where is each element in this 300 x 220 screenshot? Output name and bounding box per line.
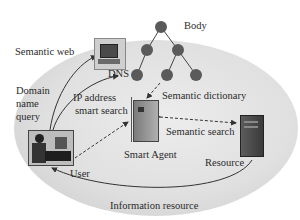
label-domain-name-query-2: name	[16, 98, 39, 110]
label-ip-address: IP address	[73, 92, 116, 104]
resource-server-icon	[240, 115, 264, 157]
user-at-computer-icon	[28, 130, 74, 166]
label-smart-agent: Smart Agent	[124, 149, 177, 161]
label-dns: DNS	[108, 68, 129, 80]
label-domain-name-query-3: query	[16, 111, 40, 123]
label-semantic-web: Semantic web	[15, 46, 74, 58]
label-user: User	[70, 168, 90, 180]
label-domain-name-query-1: Domain	[16, 85, 50, 97]
label-smart-search: smart search	[75, 105, 128, 117]
smart-agent-divider	[131, 97, 132, 142]
label-body: Body	[184, 20, 207, 32]
label-semantic-dictionary: Semantic dictionary	[162, 90, 246, 102]
semantic-web-computer-icon	[94, 38, 126, 70]
label-information-resource: Information resource	[110, 200, 198, 212]
label-semantic-search: Semantic search	[166, 126, 235, 138]
smart-agent-server-icon	[133, 100, 159, 142]
diagram-canvas: Body Semantic web DNS Domain name query …	[0, 0, 300, 220]
label-resource: Resource	[205, 157, 244, 169]
